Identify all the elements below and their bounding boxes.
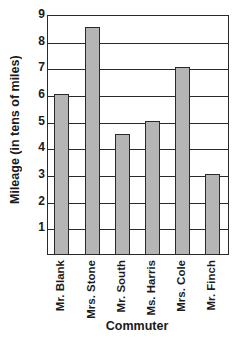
plot-area: [47, 15, 229, 255]
bar: [115, 134, 130, 254]
y-tick-label: 3: [37, 167, 45, 181]
y-tick-label: 2: [37, 194, 45, 208]
gridline: [48, 69, 228, 70]
y-tick-label: 9: [37, 7, 45, 21]
x-tick-label: Mrs. Stone: [85, 260, 97, 319]
y-tick-label: 1: [37, 220, 45, 234]
bar: [54, 94, 69, 254]
bar: [205, 174, 220, 254]
gridline: [48, 149, 228, 150]
bar: [145, 121, 160, 254]
x-tick-label: Mr. Blank: [54, 260, 66, 311]
y-tick-label: 6: [37, 87, 45, 101]
x-tick-label: Mr. South: [115, 260, 127, 312]
x-tick-label: Mr. Finch: [205, 260, 217, 310]
x-tick-label: Ms. Harris: [145, 260, 157, 316]
x-tick-label: Mrs. Cole: [175, 260, 187, 312]
bar: [175, 67, 190, 254]
y-axis-title: Mileage (in tens of miles): [8, 30, 22, 230]
y-tick-label: 8: [37, 34, 45, 48]
gridline: [48, 123, 228, 124]
x-axis-title: Commuter: [0, 319, 232, 333]
gridline: [48, 43, 228, 44]
gridline: [48, 96, 228, 97]
y-tick-label: 7: [37, 60, 45, 74]
bar: [85, 27, 100, 254]
y-tick-label: 5: [37, 114, 45, 128]
gridline: [48, 176, 228, 177]
gridline: [48, 203, 228, 204]
gridline: [48, 229, 228, 230]
y-tick-label: 4: [37, 140, 45, 154]
